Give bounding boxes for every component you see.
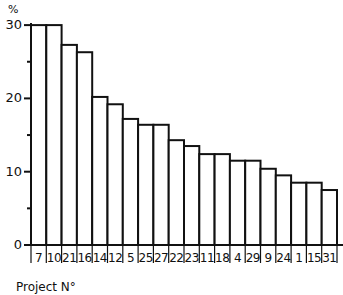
bar-project-29 (245, 161, 260, 245)
bar-project-31 (322, 190, 337, 245)
bar-project-4 (230, 161, 245, 245)
bar-project-18 (215, 154, 230, 245)
x-tick-label: 11 (199, 252, 214, 264)
x-tick-label: 15 (306, 252, 321, 264)
bar-project-15 (306, 183, 321, 245)
x-tick-label: 1 (291, 252, 306, 264)
x-axis-title: Project N° (16, 280, 76, 294)
x-tick-label: 31 (322, 252, 337, 264)
x-tick-label: 22 (169, 252, 184, 264)
x-tick-label: 16 (77, 252, 92, 264)
bar-project-22 (169, 140, 184, 245)
bar-project-24 (276, 175, 291, 245)
bar-project-14 (92, 97, 107, 245)
bar-project-1 (291, 183, 306, 245)
bar-project-9 (261, 169, 276, 245)
x-tick-label: 25 (138, 252, 153, 264)
bar-project-12 (108, 104, 123, 245)
bar-project-5 (123, 119, 138, 245)
bar-project-11 (199, 154, 214, 245)
x-tick-label: 5 (123, 252, 138, 264)
x-tick-label: 12 (108, 252, 123, 264)
bar-project-23 (184, 146, 199, 245)
bar-project-25 (138, 125, 153, 245)
bar-project-16 (77, 52, 92, 245)
bar-project-27 (153, 125, 168, 245)
x-tick-label: 9 (261, 252, 276, 264)
bar-project-7 (31, 25, 46, 245)
x-tick-label: 27 (153, 252, 168, 264)
x-tick-label: 18 (215, 252, 230, 264)
x-tick-label: 10 (46, 252, 61, 264)
bar-project-21 (62, 45, 77, 245)
bar-project-10 (46, 25, 61, 245)
x-tick-label: 23 (184, 252, 199, 264)
x-tick-label: 21 (62, 252, 77, 264)
x-tick-label: 24 (276, 252, 291, 264)
x-tick-label: 4 (230, 252, 245, 264)
x-tick-label: 14 (92, 252, 107, 264)
x-tick-label: 29 (245, 252, 260, 264)
x-tick-label: 7 (31, 252, 46, 264)
